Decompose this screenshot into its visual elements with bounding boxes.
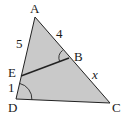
side-label-ed: 1 bbox=[8, 80, 15, 95]
vertex-label-c: C bbox=[112, 100, 121, 115]
triangle-diagram: A B C D E 5 1 4 x bbox=[0, 0, 125, 120]
side-label-ab: 4 bbox=[56, 26, 63, 41]
vertex-label-a: A bbox=[30, 1, 40, 16]
vertex-label-b: B bbox=[74, 49, 83, 64]
vertex-label-d: D bbox=[8, 100, 17, 115]
vertex-label-e: E bbox=[8, 65, 16, 80]
side-label-bc: x bbox=[91, 67, 98, 82]
side-label-ae: 5 bbox=[16, 36, 23, 51]
